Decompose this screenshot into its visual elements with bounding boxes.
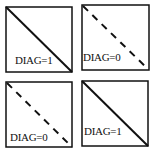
diag-label: DIAG=0: [10, 132, 47, 143]
panel-top-right: DIAG=0: [81, 4, 150, 71]
panel-bottom-left: DIAG=0: [5, 81, 73, 148]
diag-label: DIAG=1: [84, 126, 121, 137]
panel-top-left: DIAG=1: [5, 6, 73, 73]
diag-label: DIAG=1: [15, 55, 52, 66]
diag-label: DIAG=0: [83, 52, 120, 63]
panel-bottom-right: DIAG=1: [81, 80, 149, 147]
